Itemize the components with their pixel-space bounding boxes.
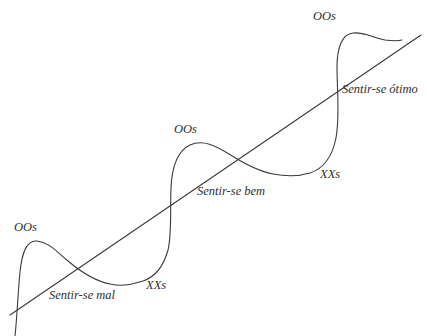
label-oos-1: OOs: [14, 221, 37, 234]
label-stage-sentir-se-mal: Sentir-se mal: [49, 289, 115, 302]
progress-wave-diagram: [0, 0, 427, 336]
label-oos-3: OOs: [313, 10, 336, 23]
label-xxs-1: XXs: [146, 279, 166, 292]
label-stage-sentir-se-bem: Sentir-se bem: [197, 185, 265, 198]
label-xxs-2: XXs: [320, 168, 340, 181]
trend-line: [10, 35, 421, 315]
figure-canvas: OOs XXs Sentir-se mal OOs Sentir-se bem …: [0, 0, 427, 336]
label-oos-2: OOs: [174, 123, 197, 136]
label-stage-sentir-se-otimo: Sentir-se ótimo: [342, 83, 418, 96]
